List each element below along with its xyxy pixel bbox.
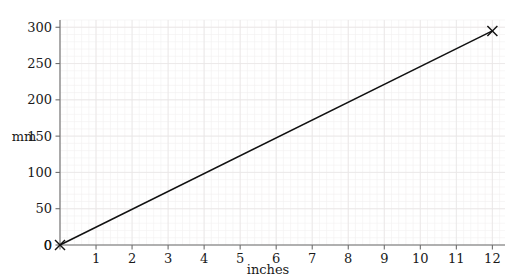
- x-axis-title: inches: [247, 262, 290, 277]
- y-axis-tick-label: 250: [27, 56, 52, 71]
- x-axis-tick-label: 8: [344, 251, 352, 266]
- x-axis-tick-label: 4: [200, 251, 208, 266]
- x-axis-tick-label: 2: [128, 251, 136, 266]
- y-axis-tick-label: 0: [44, 238, 52, 253]
- y-axis-tick-label: 200: [27, 92, 52, 107]
- x-axis-tick-label: 10: [412, 251, 429, 266]
- y-axis-tick-label: 50: [35, 201, 52, 216]
- x-axis-tick-label: 9: [380, 251, 388, 266]
- chart-container: 1234567891011120 050100150200250300 inch…: [0, 0, 515, 280]
- y-axis-title: mm: [12, 129, 37, 144]
- x-axis-tick-label: 7: [308, 251, 316, 266]
- x-axis-tick-label: 5: [236, 251, 244, 266]
- y-axis-tick-label: 100: [27, 165, 52, 180]
- x-axis-tick-label: 11: [448, 251, 465, 266]
- y-axis-tick-label: 300: [27, 20, 52, 35]
- x-axis-tick-label: 12: [484, 251, 501, 266]
- x-axis-tick-label: 3: [164, 251, 172, 266]
- x-axis-tick-label: 1: [92, 251, 100, 266]
- line-chart-figure: 1234567891011120 050100150200250300 inch…: [0, 0, 515, 280]
